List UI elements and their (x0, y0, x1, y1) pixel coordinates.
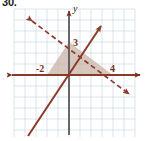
y-axis-label: y (72, 3, 78, 14)
figure-container: 30. (0, 0, 147, 141)
x-intercept-label-neg2: -2 (36, 63, 44, 74)
coordinate-plane-graph: y 3 -2 4 (0, 0, 147, 141)
x-intercept-label-4: 4 (110, 63, 115, 74)
y-intercept-label-3: 3 (73, 37, 78, 48)
